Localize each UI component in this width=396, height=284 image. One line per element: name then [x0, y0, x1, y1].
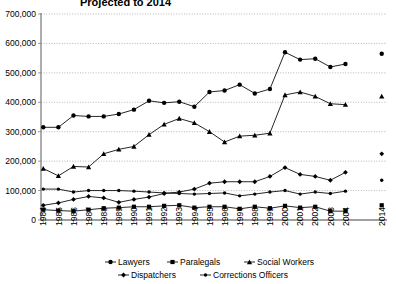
data-point — [117, 189, 120, 192]
data-point — [329, 192, 332, 195]
x-axis-tick-label: 1992 — [159, 207, 169, 226]
data-point — [222, 205, 226, 209]
series-lawyers — [41, 50, 384, 129]
y-axis-tick-label: 600,000 — [5, 38, 36, 48]
data-point — [86, 208, 90, 212]
data-point — [268, 87, 272, 91]
y-axis-tick-label: 100,000 — [5, 186, 36, 196]
legend-label: Lawyers — [118, 257, 150, 267]
data-point — [162, 191, 165, 194]
chart-container: Projected to 2014 0100,000200,000300,000… — [0, 0, 396, 284]
data-point — [343, 170, 348, 175]
data-point — [328, 209, 332, 213]
data-point — [238, 194, 241, 197]
legend-item-dispatchers[interactable]: Dispatchers — [118, 270, 176, 280]
data-point — [147, 99, 151, 103]
data-point — [314, 190, 317, 193]
data-point — [222, 179, 227, 184]
y-axis-tick-label: 500,000 — [5, 68, 36, 78]
data-point — [147, 195, 152, 200]
data-point — [71, 113, 75, 117]
data-point — [268, 174, 273, 179]
data-point — [177, 116, 182, 121]
data-point — [57, 187, 60, 190]
legend-label: Dispatchers — [131, 270, 176, 280]
data-point — [298, 172, 303, 177]
data-point — [313, 174, 318, 179]
data-point — [313, 205, 317, 209]
x-axis-tick-label: 2002 — [310, 207, 320, 226]
data-point — [56, 173, 61, 178]
x-axis-tick-label: 1990 — [129, 207, 139, 226]
data-point — [132, 107, 136, 111]
data-point — [117, 206, 121, 210]
data-point — [268, 206, 272, 210]
data-point — [192, 105, 196, 109]
data-point — [343, 62, 347, 66]
data-point — [380, 52, 384, 56]
x-axis-tick-label: 2014 — [377, 207, 387, 226]
legend-item-lawyers[interactable]: Lawyers — [105, 257, 150, 267]
data-point — [42, 187, 45, 190]
data-point — [162, 204, 166, 208]
data-point — [41, 125, 45, 129]
data-point — [238, 207, 242, 211]
data-point — [108, 260, 112, 264]
data-point — [223, 191, 226, 194]
data-point — [283, 50, 287, 54]
data-point — [298, 206, 302, 210]
legend-label: Corrections Officers — [213, 270, 288, 280]
legend-item-corrections-officers[interactable]: Corrections Officers — [200, 270, 288, 280]
data-point — [72, 190, 75, 193]
x-axis-tick-label: 1995 — [205, 207, 215, 226]
y-axis-tick-label: 0 — [31, 215, 36, 225]
series-corrections-officers — [42, 179, 384, 198]
data-point — [116, 200, 121, 205]
data-point — [147, 205, 151, 209]
data-point — [193, 192, 196, 195]
data-point — [253, 192, 256, 195]
data-point — [380, 203, 384, 207]
data-point — [313, 57, 317, 61]
data-point — [178, 192, 181, 195]
series-social-workers — [41, 89, 385, 178]
data-point — [56, 201, 61, 206]
data-point — [253, 205, 257, 209]
data-point — [283, 204, 287, 208]
data-point — [147, 190, 150, 193]
data-point — [207, 205, 211, 209]
legend-item-paralegals[interactable]: Paralegals — [167, 257, 220, 267]
data-point — [344, 189, 347, 192]
data-point — [207, 181, 212, 186]
legend-item-social-workers[interactable]: Social Workers — [244, 257, 314, 267]
data-point — [56, 125, 60, 129]
data-point — [177, 99, 181, 103]
data-point — [298, 192, 301, 195]
data-point — [102, 189, 105, 192]
data-point — [328, 65, 332, 69]
data-point — [102, 114, 106, 118]
data-point — [86, 114, 90, 118]
data-point — [177, 203, 181, 207]
data-point — [71, 209, 75, 213]
data-point — [208, 192, 211, 195]
data-point — [268, 190, 271, 193]
data-point — [328, 178, 333, 183]
data-point — [102, 206, 106, 210]
x-axis-tick-label: 1991 — [144, 207, 154, 226]
line-chart: 0100,000200,000300,000400,000500,000600,… — [0, 0, 396, 284]
data-point — [71, 197, 76, 202]
data-point — [267, 131, 272, 136]
data-point — [56, 208, 60, 212]
y-axis-tick-label: 700,000 — [5, 9, 36, 19]
y-axis-tick-label: 200,000 — [5, 156, 36, 166]
data-point — [252, 179, 257, 184]
data-point — [379, 151, 384, 156]
data-point — [121, 273, 126, 278]
data-point — [253, 91, 257, 95]
legend-label: Paralegals — [180, 257, 220, 267]
data-point — [132, 205, 136, 209]
series-dispatchers — [41, 151, 384, 207]
y-axis-tick-label: 400,000 — [5, 97, 36, 107]
y-axis-tick-label: 300,000 — [5, 127, 36, 137]
